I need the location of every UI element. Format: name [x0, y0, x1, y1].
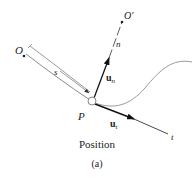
path-curve-left: [26, 54, 90, 100]
arc-length-label: s: [54, 67, 58, 77]
figure-caption: Position: [79, 138, 116, 150]
tangent-axis-label: t: [171, 132, 174, 142]
arc-length-band: [30, 46, 90, 92]
point-p-label: P: [77, 110, 85, 122]
normal-unit-vector-label: un: [106, 72, 116, 85]
tangent-unit-vector-label: ut: [110, 118, 119, 131]
figure-sublabel: (a): [91, 158, 102, 170]
center-of-curvature-label: O′: [124, 10, 134, 21]
origin-label: O: [15, 44, 23, 56]
normal-tangent-coordinates-diagram: O O′ n s P t un ut Position (a): [0, 0, 196, 181]
normal-axis-label: n: [116, 39, 121, 49]
path-curve-right: [95, 61, 192, 106]
tangent-axis-line: [134, 119, 168, 134]
origin-dot: [23, 55, 26, 58]
point-p-marker: [88, 97, 96, 105]
center-of-curvature-dot: [121, 21, 124, 24]
